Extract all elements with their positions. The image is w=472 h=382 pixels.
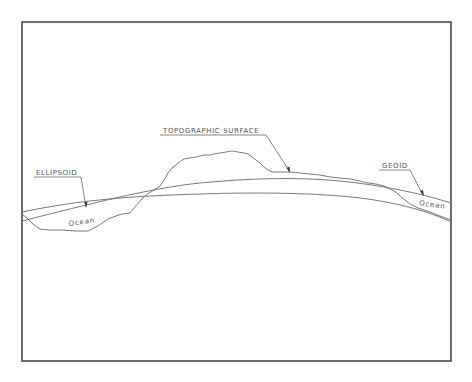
geoid-leader-line [379,170,423,195]
geodesy-diagram: ELLIPSOID TOPOGRAPHIC SURFACE GEOID Ocea… [0,0,472,382]
geoid-curve [22,179,451,221]
topographic-surface-leader-line [160,135,290,172]
ocean-label-left: Ocean [68,216,95,228]
ellipsoid-label: ELLIPSOID [36,169,77,177]
topographic-surface-label: TOPOGRAPHIC SURFACE [162,127,259,135]
geoid-label: GEOID [382,162,408,170]
diagram-frame [22,22,451,361]
ocean-label-right: Ocean [419,199,446,211]
